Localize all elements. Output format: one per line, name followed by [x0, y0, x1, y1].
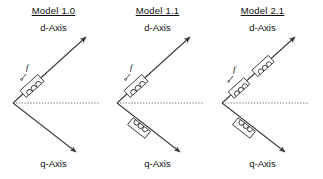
- d-axis-damper-coil: [252, 55, 274, 76]
- field-terminal-dot: [21, 79, 23, 81]
- field-terminal-stub: [22, 74, 26, 79]
- field-winding-coil: [20, 75, 44, 98]
- field-label: f: [130, 62, 134, 72]
- field-terminal-dot: [125, 79, 127, 81]
- axis-drawing: f: [0, 0, 107, 179]
- model-panel-1-0: Model 1.0 d-Axis q-Axis f: [0, 0, 107, 179]
- field-label: f: [233, 64, 237, 74]
- q-axis-arrow: [13, 103, 76, 152]
- field-winding-coil: [124, 75, 148, 98]
- diagram-canvas: Model 1.0 d-Axis q-Axis f: [0, 0, 323, 179]
- field-terminal-stub: [126, 74, 130, 79]
- field-label: f: [26, 62, 30, 72]
- q-axis-arrow: [117, 103, 180, 152]
- field-winding-coil: [228, 78, 249, 99]
- axis-drawing: f: [104, 0, 211, 179]
- q-axis-arrow: [222, 103, 285, 152]
- axis-drawing: f: [209, 0, 316, 179]
- field-terminal-dot: [228, 81, 230, 83]
- model-panel-1-1: Model 1.1 d-Axis q-Axis f: [104, 0, 211, 179]
- q-axis-damper-coil: [128, 118, 151, 138]
- q-axis-damper-coil: [233, 118, 256, 138]
- model-panel-2-1: Model 2.1 d-Axis q-Axis f: [209, 0, 316, 179]
- field-terminal-stub: [229, 76, 233, 81]
